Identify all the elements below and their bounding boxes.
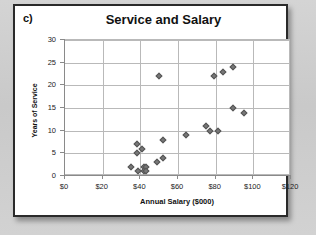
y-tick-label: 0 — [26, 171, 56, 180]
y-tick-label: 30 — [26, 35, 56, 44]
gridline-horizontal — [65, 108, 289, 109]
data-point — [159, 154, 166, 161]
y-tick-label: 20 — [26, 80, 56, 89]
y-tick-label: 10 — [26, 125, 56, 134]
x-tick-label: $60 — [157, 182, 197, 191]
y-tick-label: 25 — [26, 57, 56, 66]
data-point — [133, 150, 140, 157]
y-tick-mark — [60, 107, 64, 108]
x-tick-label: $40 — [119, 182, 159, 191]
data-point — [154, 159, 161, 166]
x-tick-mark — [252, 175, 253, 179]
data-point — [229, 64, 236, 71]
gridline-horizontal — [65, 85, 289, 86]
data-point — [127, 163, 134, 170]
x-tick-mark — [290, 175, 291, 179]
gridline-vertical — [140, 40, 141, 174]
data-point — [159, 136, 166, 143]
data-point — [240, 109, 247, 116]
x-tick-mark — [177, 175, 178, 179]
figure-card: c) Service and Salary Years of Service A… — [13, 4, 288, 217]
gridline-vertical — [178, 40, 179, 174]
plot-area — [64, 39, 290, 175]
y-tick-label: 15 — [26, 103, 56, 112]
data-point — [182, 132, 189, 139]
x-tick-mark — [139, 175, 140, 179]
data-point — [156, 73, 163, 80]
scatter-plot: Years of Service Annual Salary ($000) 05… — [15, 6, 290, 219]
x-tick-mark — [215, 175, 216, 179]
gridline-horizontal — [65, 40, 289, 41]
y-axis-line — [64, 39, 65, 175]
gridline-horizontal — [65, 63, 289, 64]
gridline-vertical — [253, 40, 254, 174]
y-tick-mark — [60, 84, 64, 85]
x-tick-mark — [64, 175, 65, 179]
gridline-horizontal — [65, 131, 289, 132]
data-point — [220, 68, 227, 75]
data-point — [206, 127, 213, 134]
y-tick-mark — [60, 152, 64, 153]
gridline-horizontal — [65, 153, 289, 154]
x-tick-label: $100 — [232, 182, 272, 191]
x-tick-label: $0 — [44, 182, 84, 191]
y-tick-mark — [60, 39, 64, 40]
gridline-vertical — [103, 40, 104, 174]
x-tick-mark — [102, 175, 103, 179]
gridline-vertical — [216, 40, 217, 174]
x-axis-title: Annual Salary ($000) — [64, 197, 290, 206]
y-tick-label: 5 — [26, 148, 56, 157]
x-tick-label: $20 — [82, 182, 122, 191]
data-point — [229, 104, 236, 111]
y-tick-mark — [60, 62, 64, 63]
y-tick-mark — [60, 130, 64, 131]
x-tick-label: $120 — [270, 182, 310, 191]
x-tick-label: $80 — [195, 182, 235, 191]
